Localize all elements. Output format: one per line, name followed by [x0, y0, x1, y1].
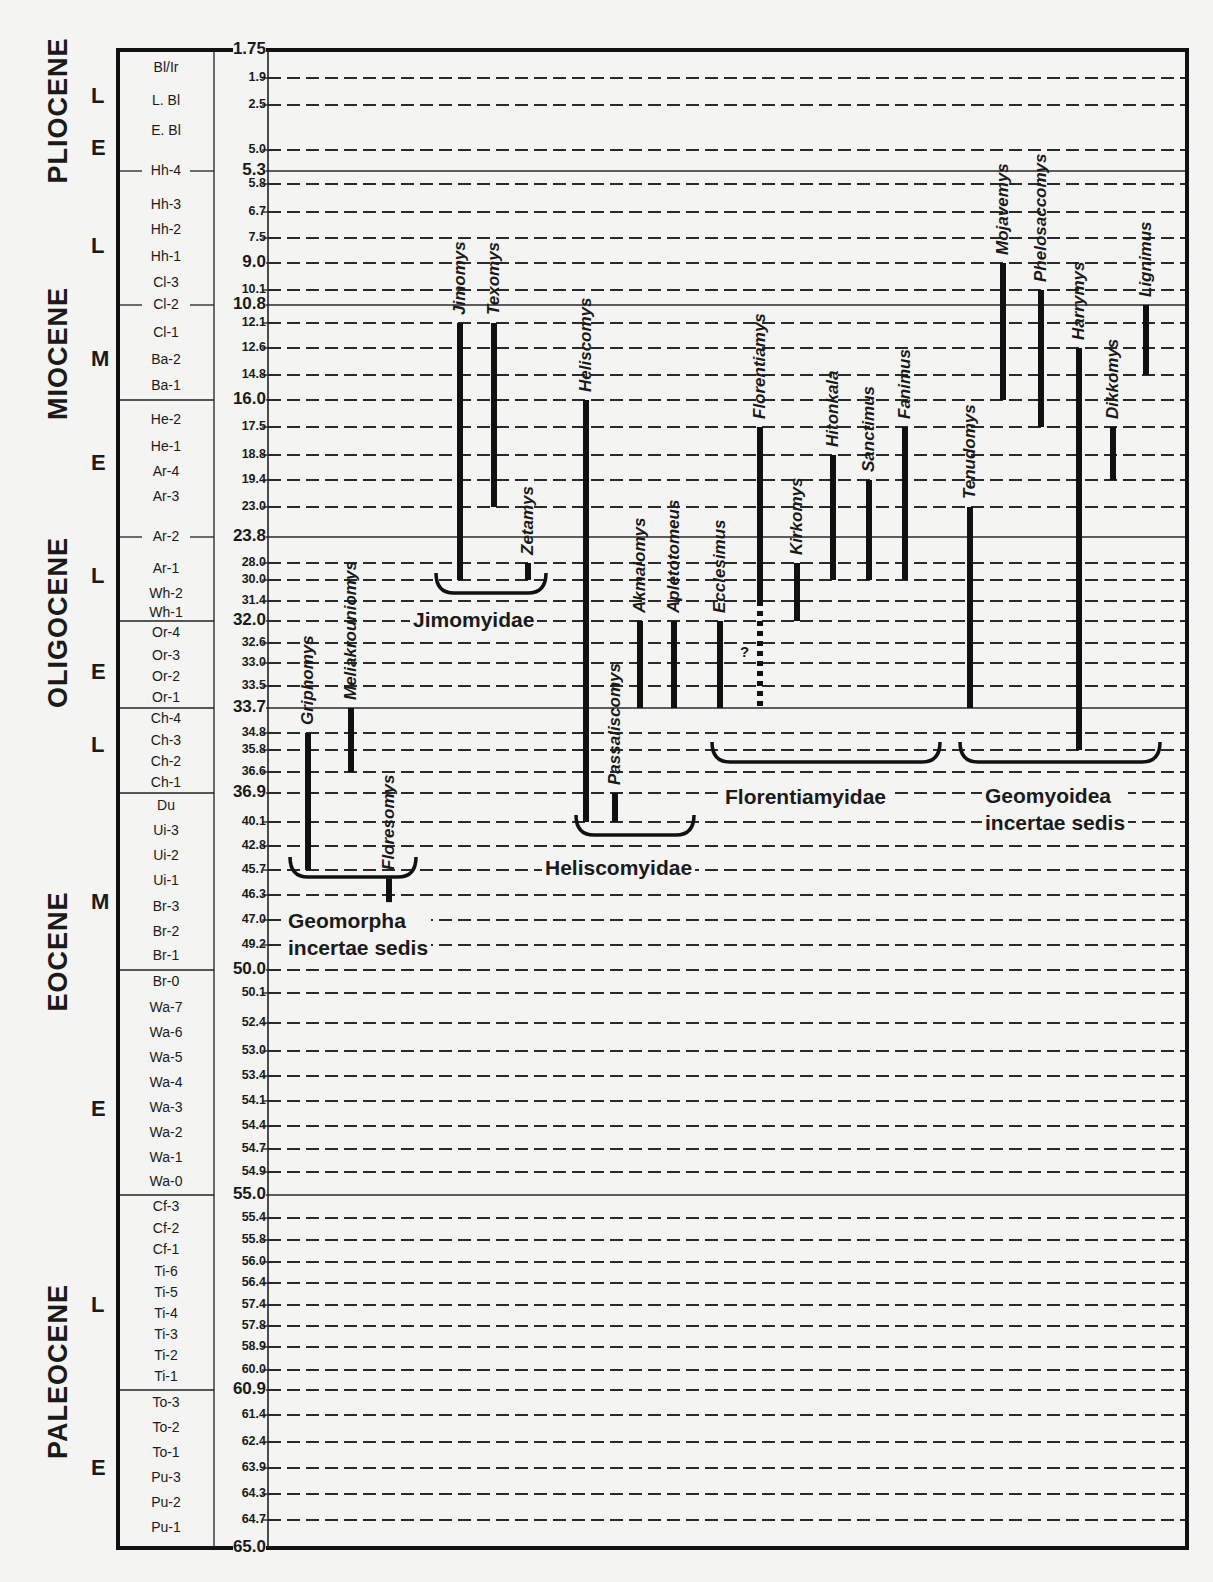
- age-tick-label: 23.8: [233, 526, 266, 546]
- age-tick-label: 32.6: [242, 635, 266, 649]
- age-tick-label: 56.0: [242, 1254, 266, 1268]
- nalma-zone-label: Wa-2: [118, 1124, 214, 1140]
- age-tick-label: 40.1: [242, 814, 266, 828]
- family-label-line: incertae sedis: [985, 809, 1125, 836]
- family-label-line: Geomyoidea: [985, 782, 1125, 809]
- family-label-line: incertae sedis: [288, 934, 428, 961]
- taxon-label: Fanimus: [895, 349, 915, 419]
- nalma-zone-label: Wa-1: [118, 1149, 214, 1165]
- nalma-zone-label: Hh-4: [118, 162, 214, 178]
- age-tick-label: 61.4: [242, 1407, 266, 1421]
- taxon-label: Kirkomys: [787, 478, 807, 555]
- nalma-zone-label: Wa-7: [118, 999, 214, 1015]
- age-tick-label: 28.0: [242, 555, 266, 569]
- family-label: Geomorphaincertae sedis: [285, 907, 431, 961]
- query-mark: ?: [740, 643, 749, 660]
- age-tick-label: 9.0: [242, 252, 266, 272]
- nalma-zone-label: Ui-3: [118, 822, 214, 838]
- taxon-label: Sanctimus: [859, 386, 879, 472]
- nalma-zone-label: Wa-3: [118, 1099, 214, 1115]
- epoch-label: EOCENE: [43, 891, 74, 1011]
- age-tick-label: 57.8: [242, 1318, 266, 1332]
- age-tick-label: 31.4: [242, 593, 266, 607]
- age-tick-label: 58.9: [242, 1339, 266, 1353]
- nalma-zone-label: To-1: [118, 1444, 214, 1460]
- nalma-zone-label: Bl/Ir: [118, 59, 214, 75]
- subepoch-label: L: [91, 563, 104, 589]
- age-tick-label: 5.8: [249, 176, 266, 190]
- age-tick-label: 1.9: [249, 70, 266, 84]
- nalma-zone-label: Hh-1: [118, 248, 214, 264]
- taxon-label: Jimomys: [450, 241, 470, 315]
- nalma-zone-label: Ar-2: [118, 528, 214, 544]
- age-tick-label: 56.4: [242, 1275, 266, 1289]
- family-bracket: [960, 742, 1160, 762]
- subepoch-label: E: [91, 1096, 106, 1122]
- age-tick-label: 47.0: [242, 912, 266, 926]
- taxon-label: Griphomys: [298, 635, 318, 725]
- age-tick-label: 55.4: [242, 1210, 266, 1224]
- age-tick-label: 32.0: [233, 610, 266, 630]
- taxon-label: Akmaiomys: [630, 518, 650, 613]
- age-tick-label: 33.0: [242, 655, 266, 669]
- nalma-zone-label: Or-3: [118, 647, 214, 663]
- taxon-label: Passaliscomys: [605, 663, 625, 785]
- nalma-zone-label: Ti-3: [118, 1326, 214, 1342]
- age-tick-label: 54.7: [242, 1141, 266, 1155]
- subepoch-label: E: [91, 135, 106, 161]
- nalma-zone-label: Ui-2: [118, 847, 214, 863]
- nalma-zone-label: Ch-4: [118, 710, 214, 726]
- family-bracket: [576, 815, 694, 835]
- age-tick-label: 17.5: [242, 419, 266, 433]
- nalma-zone-label: Ti-5: [118, 1284, 214, 1300]
- age-tick-label: 53.0: [242, 1043, 266, 1057]
- age-tick-label: 2.5: [249, 97, 266, 111]
- nalma-zone-label: Pu-2: [118, 1494, 214, 1510]
- nalma-zone-label: Or-4: [118, 624, 214, 640]
- nalma-zone-label: Ar-3: [118, 488, 214, 504]
- nalma-zone-label: Ba-1: [118, 377, 214, 393]
- nalma-zone-label: Wa-5: [118, 1049, 214, 1065]
- nalma-zone-label: To-3: [118, 1394, 214, 1410]
- age-tick-label: 54.4: [242, 1118, 266, 1132]
- family-label-line: Heliscomyidae: [545, 854, 692, 881]
- taxon-label: Phelosaccomys: [1031, 153, 1051, 282]
- subepoch-label: E: [91, 450, 106, 476]
- age-tick-label: 63.9: [242, 1460, 266, 1474]
- taxon-label: Apletotomeus: [664, 500, 684, 613]
- taxon-label: Texomys: [484, 242, 504, 315]
- epoch-label: PLIOCENE: [43, 30, 74, 190]
- age-tick-label: 35.8: [242, 742, 266, 756]
- age-tick-label: 46.3: [242, 887, 266, 901]
- subepoch-label: L: [91, 233, 104, 259]
- nalma-zone-label: Hh-2: [118, 221, 214, 237]
- nalma-zone-label: Hh-3: [118, 196, 214, 212]
- nalma-zone-label: Ar-1: [118, 560, 214, 576]
- age-tick-label: 5.0: [249, 142, 266, 156]
- taxon-label: Hitonkala: [823, 370, 843, 447]
- nalma-zone-label: Wh-2: [118, 585, 214, 601]
- nalma-zone-label: Br-3: [118, 898, 214, 914]
- age-tick-label: 36.6: [242, 764, 266, 778]
- age-tick-label: 12.6: [242, 340, 266, 354]
- age-tick-label: 1.75: [233, 39, 266, 59]
- taxon-label: Meliakrouniomys: [341, 561, 361, 700]
- epoch-label: OLIGOCENE: [43, 532, 74, 712]
- subepoch-label: L: [91, 732, 104, 758]
- nalma-zone-label: Wa-4: [118, 1074, 214, 1090]
- nalma-zone-label: Ch-2: [118, 753, 214, 769]
- age-tick-label: 10.8: [233, 294, 266, 314]
- family-label: Jimomyidae: [410, 606, 537, 633]
- nalma-zone-label: Cf-2: [118, 1220, 214, 1236]
- age-tick-label: 57.4: [242, 1297, 266, 1311]
- epoch-label: MIOCENE: [43, 284, 74, 424]
- family-label: Geomyoideaincertae sedis: [982, 782, 1128, 836]
- nalma-zone-label: Cl-1: [118, 324, 214, 340]
- nalma-zone-label: Wh-1: [118, 604, 214, 620]
- nalma-zone-label: Ti-4: [118, 1305, 214, 1321]
- nalma-zone-label: Br-1: [118, 947, 214, 963]
- nalma-zone-label: He-2: [118, 411, 214, 427]
- nalma-zone-label: Ti-6: [118, 1263, 214, 1279]
- nalma-zone-label: Br-0: [118, 973, 214, 989]
- nalma-zone-label: He-1: [118, 438, 214, 454]
